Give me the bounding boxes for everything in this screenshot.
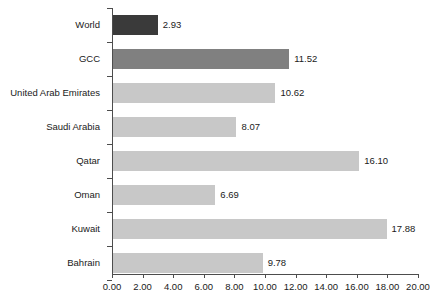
category-label: GCC: [0, 49, 106, 69]
bar: [113, 49, 289, 69]
category-tick: [107, 8, 112, 9]
bar-value-label: 2.93: [163, 15, 182, 35]
bar-value-label: 8.07: [241, 117, 260, 137]
bar: [113, 185, 215, 205]
bar: [113, 117, 236, 137]
category-label: Qatar: [0, 151, 106, 171]
category-label: Saudi Arabia: [0, 117, 106, 137]
plot-area: World2.93GCC11.52United Arab Emirates10.…: [0, 0, 438, 304]
bar-row: United Arab Emirates10.62: [0, 83, 438, 117]
bar-row: Kuwait17.88: [0, 219, 438, 253]
bar-value-label: 16.10: [364, 151, 388, 171]
bar-value-label: 10.62: [280, 83, 304, 103]
bar-chart: World2.93GCC11.52United Arab Emirates10.…: [0, 0, 438, 304]
bar: [113, 151, 359, 171]
bar-row: Qatar16.10: [0, 151, 438, 185]
bar: [113, 15, 158, 35]
bar: [113, 83, 275, 103]
bar-row: World2.93: [0, 15, 438, 49]
bar-value-label: 9.78: [268, 253, 287, 273]
bar-value-label: 6.69: [220, 185, 239, 205]
category-label: World: [0, 15, 106, 35]
bar: [113, 253, 263, 273]
bar-value-label: 17.88: [392, 219, 416, 239]
bar-row: Oman6.69: [0, 185, 438, 219]
value-tick-label: 20.00: [398, 281, 438, 293]
bar-row: Saudi Arabia8.07: [0, 117, 438, 151]
category-label: Oman: [0, 185, 106, 205]
category-label: Kuwait: [0, 219, 106, 239]
bar-value-label: 11.52: [294, 49, 317, 69]
bar: [113, 219, 387, 239]
category-label: Bahrain: [0, 253, 106, 273]
category-label: United Arab Emirates: [0, 83, 106, 103]
bar-row: GCC11.52: [0, 49, 438, 83]
